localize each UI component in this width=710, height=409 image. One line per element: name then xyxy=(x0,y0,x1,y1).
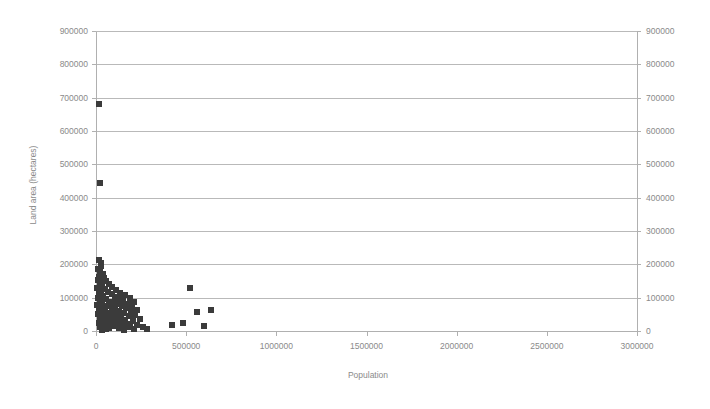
y-axis-tick-label-right: 800000 xyxy=(646,59,675,69)
data-point-marker xyxy=(201,323,207,329)
y-axis-tick-label: 400000 xyxy=(60,193,89,203)
y-axis-tick-label-right: 700000 xyxy=(646,93,675,103)
axes-layer xyxy=(97,32,638,332)
y-axis-tick-label: 200000 xyxy=(60,259,89,269)
data-point-marker xyxy=(208,307,214,313)
data-point-marker xyxy=(169,322,175,328)
y-axis-tick-label-right: 500000 xyxy=(646,159,675,169)
data-point-marker xyxy=(96,101,102,107)
y-axis-tick-labels-left: 0100000200000300000400000500000600000700… xyxy=(60,26,89,336)
data-point-marker xyxy=(131,326,137,332)
x-axis-tick-label: 1000000 xyxy=(260,341,293,351)
y-axis-tick-label: 700000 xyxy=(60,93,89,103)
data-point-marker xyxy=(180,320,186,326)
data-point-marker xyxy=(121,327,127,333)
x-axis-tick-label: 2000000 xyxy=(440,341,473,351)
x-axis-tick-label: 500000 xyxy=(172,341,201,351)
y-axis-tick-label: 600000 xyxy=(60,126,89,136)
y-axis-tick-label-right: 600000 xyxy=(646,126,675,136)
y-axis-tick-label: 800000 xyxy=(60,59,89,69)
x-axis-tick-labels: 0500000100000015000002000000250000030000… xyxy=(94,341,654,351)
y-axis-tick-label-right: 200000 xyxy=(646,259,675,269)
y-axis-tick-label: 900000 xyxy=(60,26,89,36)
x-axis-tick-label: 0 xyxy=(94,341,99,351)
data-point-marker xyxy=(97,180,103,186)
y-axis-tick-label-right: 0 xyxy=(646,326,651,336)
x-axis-tick-label: 1500000 xyxy=(350,341,383,351)
tick-marks-layer xyxy=(92,32,641,337)
x-axis-tick-label: 3000000 xyxy=(620,341,653,351)
chart-canvas: 0100000200000300000400000500000600000700… xyxy=(0,0,710,409)
y-axis-tick-label-right: 300000 xyxy=(646,226,675,236)
y-axis-tick-label-right: 900000 xyxy=(646,26,675,36)
data-point-marker xyxy=(194,309,200,315)
x-axis-title: Population xyxy=(348,370,388,380)
scatter-chart: 0100000200000300000400000500000600000700… xyxy=(0,0,710,409)
x-axis-tick-label: 2500000 xyxy=(530,341,563,351)
data-point-marker xyxy=(187,285,193,291)
y-axis-tick-label: 0 xyxy=(83,326,88,336)
y-axis-title: Land area (hectares) xyxy=(28,145,38,224)
y-axis-tick-label: 300000 xyxy=(60,226,89,236)
data-point-marker xyxy=(99,327,105,333)
data-point-marker xyxy=(144,326,150,332)
y-axis-tick-label-right: 400000 xyxy=(646,193,675,203)
y-axis-tick-label-right: 100000 xyxy=(646,293,675,303)
gridlines-layer xyxy=(96,32,637,332)
data-point-marker xyxy=(137,316,143,322)
y-axis-tick-labels-right: 0100000200000300000400000500000600000700… xyxy=(646,26,675,336)
y-axis-tick-label: 100000 xyxy=(60,293,89,303)
y-axis-tick-label: 500000 xyxy=(60,159,89,169)
data-point-marker xyxy=(116,325,122,331)
